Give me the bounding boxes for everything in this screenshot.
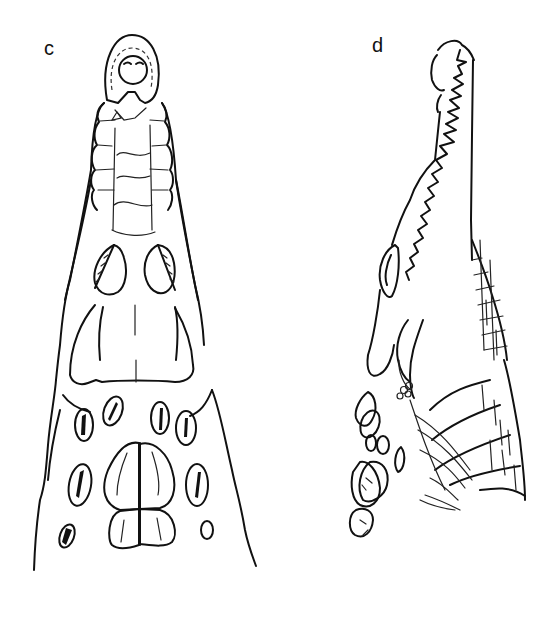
figure-canvas: [0, 0, 558, 620]
eye-right: [145, 245, 175, 293]
croc-head-lateral-view: [350, 41, 525, 537]
eye-left: [94, 245, 126, 295]
eye: [380, 245, 399, 297]
croc-head-dorsal-view: [34, 35, 256, 570]
neck-scale-grid: [410, 240, 525, 510]
nuchal-scutes: [56, 394, 213, 550]
lateral-scales: [350, 392, 404, 537]
